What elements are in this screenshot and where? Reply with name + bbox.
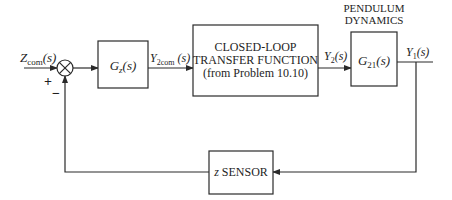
input-signal: Zcom(s) bbox=[20, 50, 57, 68]
minus-sign: − bbox=[52, 86, 60, 101]
pendulum-block: G21(s) bbox=[351, 32, 397, 86]
summing-junction: + − bbox=[44, 60, 73, 101]
feedback-to-junction bbox=[65, 76, 209, 172]
gz-block: Gz(s) bbox=[98, 41, 148, 88]
sensor-label: z SENSOR bbox=[213, 165, 268, 179]
pendulum-title-line-1: PENDULUM bbox=[343, 2, 404, 14]
input-label: Zcom(s) bbox=[20, 50, 56, 67]
pendulum-title-line-2: DYNAMICS bbox=[345, 14, 404, 26]
closed-loop-block: CLOSED-LOOP TRANSFER FUNCTION (from Prob… bbox=[193, 25, 318, 96]
y2-label: Y2(s) bbox=[324, 49, 347, 65]
sensor-block: z SENSOR bbox=[209, 151, 273, 194]
gz-label: Gz(s) bbox=[110, 58, 137, 75]
y2com-label: Y2com (s) bbox=[150, 51, 190, 67]
closed-loop-line-1: CLOSED-LOOP bbox=[214, 40, 296, 54]
block-diagram: Zcom(s) + − Gz(s) Y2com (s) CLOSED-LOOP … bbox=[0, 0, 452, 200]
y1-label: Y1(s) bbox=[406, 45, 429, 61]
plus-sign: + bbox=[44, 74, 52, 89]
closed-loop-line-2: TRANSFER FUNCTION bbox=[193, 53, 318, 67]
closed-loop-line-3: (from Problem 10.10) bbox=[203, 66, 308, 80]
